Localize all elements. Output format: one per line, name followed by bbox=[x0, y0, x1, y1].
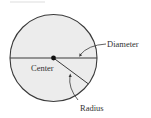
diameter-label: Diameter bbox=[107, 39, 139, 49]
center-label: Center bbox=[31, 63, 54, 73]
center-point-icon bbox=[51, 56, 56, 61]
circle-diagram: Diameter Center Radius bbox=[0, 0, 151, 118]
radius-label: Radius bbox=[80, 103, 104, 113]
